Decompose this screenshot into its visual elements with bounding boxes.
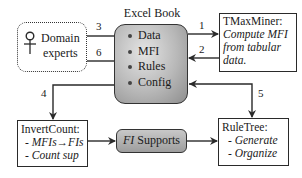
excel-item-rules: Rules — [127, 59, 187, 75]
excel-item-label: Config — [138, 75, 171, 89]
excel-item-config: Config — [127, 75, 187, 91]
tmaxminer-line: from tabular — [223, 41, 293, 54]
ruletree-line: - Generate — [222, 134, 285, 147]
supports-label: Supports — [134, 133, 180, 147]
domain-experts-node: Domain experts — [17, 22, 87, 72]
invertcount-title: InvertCount: — [21, 123, 84, 136]
tmaxminer-node: TMaxMiner: Compute MFI from tabular data… — [219, 13, 297, 72]
excel-item-label: Rules — [138, 59, 165, 73]
domain-label-line1: Domain — [41, 31, 80, 46]
excel-item-mfi: MFI — [127, 44, 187, 60]
ruletree-line: - Organize — [222, 147, 285, 160]
tmaxminer-title: TMaxMiner: — [223, 15, 293, 28]
tmaxminer-line: Compute MFI — [223, 28, 293, 41]
bullet-icon — [128, 65, 132, 69]
bullet-icon — [128, 50, 132, 54]
arrow-label-4: 4 — [41, 87, 47, 99]
excel-item-label: Data — [138, 28, 161, 42]
arrow-label-5: 5 — [258, 87, 264, 99]
arrow-label-6: 6 — [96, 46, 102, 58]
excel-book-title: Excel Book — [112, 6, 192, 21]
domain-label-line2: experts — [41, 46, 80, 61]
domain-experts-label: Domain experts — [41, 31, 80, 61]
ruletree-node: RuleTree: - Generate - Organize — [218, 118, 289, 166]
invertcount-node: InvertCount: - MFIs→FIs - Count sup — [17, 120, 88, 167]
excel-item-label: MFI — [138, 44, 159, 58]
bullet-icon — [128, 34, 132, 38]
arrow-label-1: 1 — [199, 19, 205, 31]
person-icon — [23, 31, 37, 55]
bullet-icon — [128, 81, 132, 85]
fi-supports-node: FI Supports — [116, 129, 187, 153]
fi-label: FI — [123, 133, 134, 147]
arrow-label-2: 2 — [199, 43, 205, 55]
invertcount-line: - Count sup — [21, 149, 84, 162]
excel-item-data: Data — [127, 28, 187, 44]
tmaxminer-line: data. — [223, 54, 293, 67]
arrow-label-3: 3 — [96, 20, 102, 32]
invertcount-line: - MFIs→FIs — [21, 136, 84, 149]
ruletree-title: RuleTree: — [222, 121, 285, 134]
excel-book-node: Data MFI Rules Config — [114, 24, 188, 104]
